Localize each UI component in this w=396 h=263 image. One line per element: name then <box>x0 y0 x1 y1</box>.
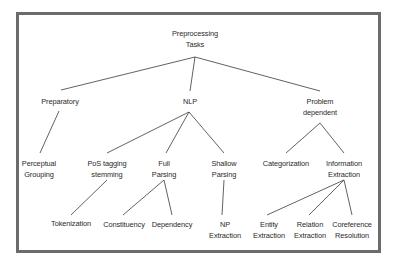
node-categorization: Categorization <box>263 158 309 169</box>
edge-full-dependency <box>164 180 172 215</box>
edge-problem-categorization <box>286 123 320 153</box>
node-label-line: Information <box>326 158 362 169</box>
node-dependency: Dependency <box>152 219 193 230</box>
node-label-line: Extraction <box>326 169 362 180</box>
node-label-line: Full <box>152 158 176 169</box>
node-label-line: Parsing <box>211 169 236 180</box>
node-label-line: Tasks <box>172 39 218 50</box>
node-label-line: Preparatory <box>41 96 79 107</box>
node-np-extraction: NP Extraction <box>209 219 241 241</box>
node-nlp: NLP <box>183 96 197 107</box>
node-label-line: dependent <box>303 107 337 118</box>
node-label-line: Constituency <box>103 219 145 230</box>
edge-problem-information <box>320 123 344 153</box>
node-label-line: Parsing <box>152 169 176 180</box>
node-label-line: Grouping <box>22 169 56 180</box>
node-perceptual-grouping: Perceptual Grouping <box>22 158 56 180</box>
edge-preparatory-perceptual <box>40 111 59 153</box>
node-constituency: Constituency <box>103 219 145 230</box>
node-tokenization: Tokenization <box>51 218 91 229</box>
node-label-line: Categorization <box>263 158 309 169</box>
node-label-line: Entity <box>253 219 285 230</box>
node-relation-extraction: Relation Extraction <box>294 219 326 241</box>
node-pos-tagging-stemming: PoS tagging stemming <box>87 158 126 180</box>
node-label-line: Coreference <box>332 219 372 230</box>
node-shallow-parsing: Shallow Parsing <box>211 158 236 180</box>
node-label-line: Extraction <box>294 230 326 241</box>
node-label-line: Perceptual <box>22 158 56 169</box>
edge-pos-tokenization <box>71 180 107 215</box>
node-preprocessing-tasks: Preprocessing Tasks <box>172 28 218 50</box>
node-label-line: Extraction <box>209 230 241 241</box>
node-problem-dependent: Problem dependent <box>303 96 337 118</box>
node-label-line: Tokenization <box>51 218 91 229</box>
node-coreference-resolution: Coreference Resolution <box>332 219 372 241</box>
node-label-line: Problem <box>303 96 337 107</box>
node-label-line: Extraction <box>253 230 285 241</box>
edge-nlp-shallow <box>189 112 224 153</box>
edge-nlp-pos <box>107 112 189 153</box>
node-label-line: NLP <box>183 96 197 107</box>
node-label-line: Preprocessing <box>172 28 218 39</box>
node-label-line: Relation <box>294 219 326 230</box>
node-label-line: PoS tagging <box>87 158 126 169</box>
node-label-line: stemming <box>87 169 126 180</box>
node-label-line: NP <box>209 219 241 230</box>
node-preparatory: Preparatory <box>41 96 79 107</box>
edge-shallow-np <box>222 180 224 215</box>
node-label-line: Shallow <box>211 158 236 169</box>
edge-root-nlp <box>190 57 195 91</box>
edge-info-relation <box>309 180 344 215</box>
edge-info-entity <box>267 180 344 215</box>
node-label-line: Resolution <box>332 230 372 241</box>
node-entity-extraction: Entity Extraction <box>253 219 285 241</box>
node-full-parsing: Full Parsing <box>152 158 176 180</box>
edge-info-coreference <box>344 180 352 215</box>
edge-root-problem-dependent <box>195 57 320 91</box>
edge-full-constituency <box>123 180 164 215</box>
node-information-extraction: Information Extraction <box>326 158 362 180</box>
edge-root-preparatory <box>61 57 195 90</box>
node-label-line: Dependency <box>152 219 193 230</box>
